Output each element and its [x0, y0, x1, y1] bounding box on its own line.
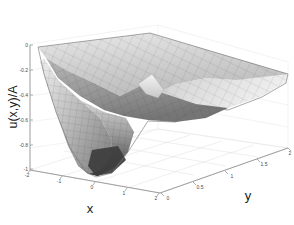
- z-tick-label-0: 0: [25, 42, 28, 48]
- plot-canvas: 0 -0.2 -0.4 -0.6 -0.8 -1 -2 -1 0 1 2: [0, 0, 294, 225]
- y-axis-label: y: [245, 188, 252, 203]
- y-axis-ticks: 0 0.5 1 1.5 2: [161, 148, 292, 201]
- z-axis-ticks: 0 -0.2 -0.4 -0.6 -0.8 -1: [19, 42, 33, 172]
- x-tick-label-3: 1: [123, 190, 126, 196]
- y-tick-label-2: 1: [231, 173, 234, 179]
- y-tick-label-4: 2: [289, 150, 292, 156]
- z-tick-label-2: -0.4: [19, 92, 28, 98]
- y-tick-label-3: 1.5: [261, 161, 268, 167]
- x-tick-label-0: -2: [25, 172, 30, 178]
- y-tick-label-0: 0: [167, 195, 170, 201]
- z-tick-label-3: -0.6: [19, 117, 28, 123]
- x-tick-label-2: 0: [91, 184, 94, 190]
- surface-mesh: [38, 33, 288, 177]
- y-tick-label-1: 0.5: [197, 184, 204, 190]
- surface-plot-figure: 0 -0.2 -0.4 -0.6 -0.8 -1 -2 -1 0 1 2: [0, 0, 294, 225]
- x-axis-label: x: [87, 201, 94, 216]
- z-axis-label: u(x,y)/A: [6, 85, 20, 129]
- x-tick-label-4: 2: [155, 195, 158, 201]
- z-tick-label-4: -0.8: [19, 142, 28, 148]
- surface-well-bottom: [88, 146, 126, 176]
- x-tick-label-1: -1: [57, 178, 62, 184]
- z-tick-label-1: -0.2: [19, 67, 28, 73]
